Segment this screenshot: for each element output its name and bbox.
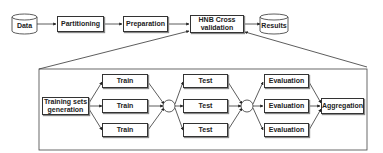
results-store: Results: [260, 18, 288, 32]
preparation-box: Preparation: [123, 16, 168, 32]
evaluation-box: Evaluation: [264, 123, 309, 137]
junction-circle: [163, 100, 175, 112]
test-box: Test: [183, 123, 228, 137]
test-box: Test: [183, 99, 228, 113]
aggregation-box: Aggregation: [321, 98, 364, 114]
evaluation-box: Evaluation: [264, 99, 309, 113]
train-box: Train: [102, 74, 148, 88]
evaluation-box: Evaluation: [264, 74, 309, 88]
data-store: Data: [12, 18, 37, 32]
junction-circle: [241, 100, 253, 112]
train-box: Train: [102, 99, 148, 113]
hnb-cross-validation-box: HNB Cross validation: [190, 15, 244, 33]
test-box: Test: [183, 74, 228, 88]
train-box: Train: [102, 123, 148, 137]
partitioning-box: Partitioning: [57, 16, 104, 32]
training-sets-generation-box: Training sets generation: [42, 97, 89, 115]
